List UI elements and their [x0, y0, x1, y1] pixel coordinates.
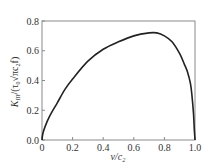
svg-text:KIII/(τ0√πc2f): KIII/(τ0√πc2f)	[9, 57, 21, 108]
data-line	[42, 33, 195, 140]
y-axis-label: KIII/(τ0√πc2f)	[9, 57, 21, 108]
chart: 0.00.20.40.60.8 00.20.40.60.81.0 v/c₂ KI…	[0, 0, 210, 168]
plot-frame	[42, 21, 195, 140]
x-axis-label: v/c₂	[110, 151, 126, 162]
x-tick-label: 0.8	[158, 142, 171, 153]
x-tick-label: 0	[40, 142, 45, 153]
x-tick-label: 0.2	[66, 142, 79, 153]
y-tick-label: 0.2	[27, 105, 40, 116]
y-tick-label: 0.0	[27, 135, 40, 146]
x-tick-label: 0.4	[97, 142, 110, 153]
x-tick-label: 1.0	[189, 142, 202, 153]
x-tick-label: 0.6	[128, 142, 141, 153]
y-tick-label: 0.8	[27, 16, 40, 27]
y-tick-label: 0.4	[27, 75, 40, 86]
y-tick-label: 0.6	[27, 45, 40, 56]
